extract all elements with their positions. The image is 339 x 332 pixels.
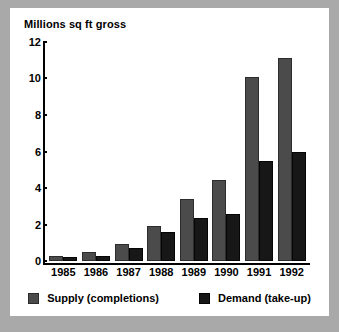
- y-tick-label: 6: [35, 146, 41, 157]
- bar-supply-1986: [82, 252, 96, 261]
- bar-group: 1992: [278, 42, 306, 261]
- bar-demand-1988: [161, 232, 175, 261]
- x-tick-label: 1992: [279, 266, 303, 278]
- bar-group: 1985: [49, 42, 77, 261]
- x-tick-label: 1985: [51, 266, 75, 278]
- y-tick-label: 4: [35, 182, 41, 193]
- legend-label-supply: Supply (completions): [47, 292, 159, 304]
- bar-groups: 19851986198719881989199019911992: [47, 42, 308, 261]
- y-tick-label: 0: [35, 256, 41, 267]
- bar-demand-1991: [259, 161, 273, 261]
- bar-demand-1987: [129, 248, 143, 261]
- bar-supply-1989: [180, 199, 194, 261]
- bar-group: 1990: [212, 42, 240, 261]
- bar-supply-1985: [49, 256, 63, 261]
- bar-group: 1987: [115, 42, 143, 261]
- bar-demand-1985: [63, 257, 77, 261]
- bar-demand-1992: [292, 152, 306, 262]
- bar-supply-1991: [245, 77, 259, 261]
- y-tick-label: 12: [29, 37, 41, 48]
- legend-swatch-demand: [199, 293, 210, 304]
- bar-group: 1988: [147, 42, 175, 261]
- x-tick-label: 1986: [84, 266, 108, 278]
- bar-group: 1989: [180, 42, 208, 261]
- x-tick-label: 1987: [116, 266, 140, 278]
- bar-demand-1986: [96, 256, 110, 261]
- bar-supply-1992: [278, 58, 292, 261]
- y-tick-label: 8: [35, 109, 41, 120]
- legend-item-demand: Demand (take-up): [199, 292, 311, 304]
- legend-label-demand: Demand (take-up): [218, 292, 311, 304]
- y-tick-label: 2: [35, 219, 41, 230]
- bar-demand-1990: [226, 214, 240, 261]
- legend-item-supply: Supply (completions): [28, 292, 159, 304]
- chart-figure: Millions sq ft gross 024681012 198519861…: [0, 0, 339, 332]
- chart-panel: Millions sq ft gross 024681012 198519861…: [10, 8, 329, 316]
- bar-group: 1991: [245, 42, 273, 261]
- legend-swatch-supply: [28, 293, 39, 304]
- chart-title: Millions sq ft gross: [24, 18, 126, 30]
- plot-frame: 024681012 198519861987198819891990199119…: [43, 42, 310, 265]
- x-tick-label: 1991: [247, 266, 271, 278]
- x-tick-label: 1990: [214, 266, 238, 278]
- bar-supply-1990: [212, 180, 226, 261]
- bar-group: 1986: [82, 42, 110, 261]
- bar-demand-1989: [194, 218, 208, 261]
- chart-legend: Supply (completions)Demand (take-up): [10, 292, 329, 304]
- x-tick-label: 1988: [149, 266, 173, 278]
- x-tick-label: 1989: [182, 266, 206, 278]
- bar-supply-1987: [115, 244, 129, 261]
- bar-supply-1988: [147, 226, 161, 261]
- y-tick-label: 10: [29, 73, 41, 84]
